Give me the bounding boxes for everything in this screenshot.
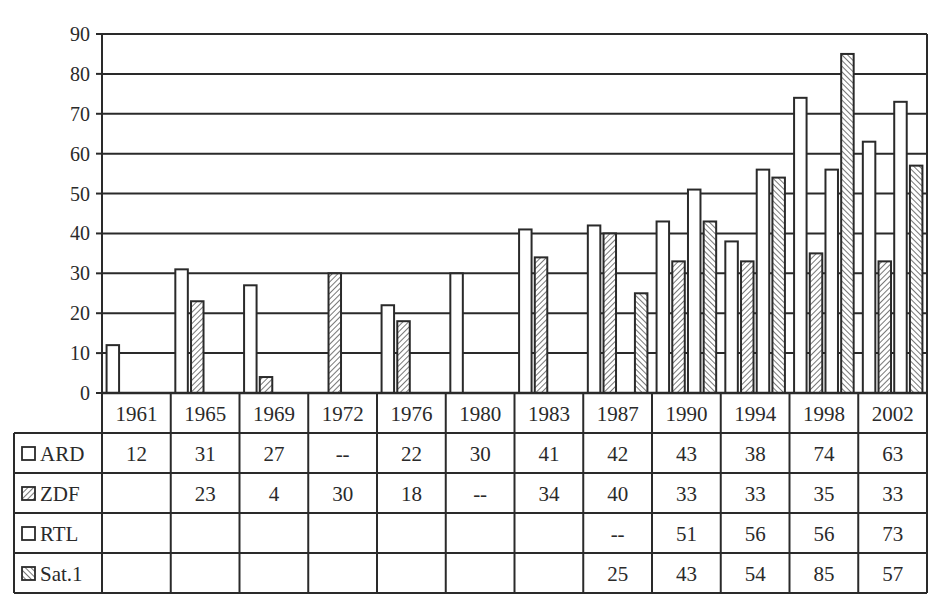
bar-rtl-2002 xyxy=(894,102,907,393)
table-cell-value: 54 xyxy=(745,562,767,586)
table-cell-value: 43 xyxy=(676,442,697,466)
table-cell-value: 35 xyxy=(813,482,834,506)
bars xyxy=(107,54,923,393)
bar-zdf-1972 xyxy=(329,273,342,393)
x-category-label: 1972 xyxy=(322,402,364,426)
table-cell-value: 42 xyxy=(607,442,628,466)
table-cell-value: 18 xyxy=(401,482,422,506)
bar-zdf-1994 xyxy=(741,261,754,393)
table-cell-value: -- xyxy=(611,522,625,546)
x-category-label: 1969 xyxy=(253,402,295,426)
table-cell-value: 38 xyxy=(745,442,766,466)
bar-ard-1969 xyxy=(244,285,257,393)
x-category-label: 1987 xyxy=(597,402,639,426)
x-category-label: 2002 xyxy=(872,402,914,426)
bar-rtl-1990 xyxy=(688,190,701,393)
table-cell-value: -- xyxy=(473,482,487,506)
bar-zdf-1965 xyxy=(191,301,204,393)
table-cell-value: 34 xyxy=(538,482,560,506)
table-cell-value: 57 xyxy=(882,562,903,586)
x-category-label: 1998 xyxy=(803,402,845,426)
bar-rtl-1998 xyxy=(825,170,838,393)
table-cell-value: 43 xyxy=(676,562,697,586)
y-tick-label: 50 xyxy=(70,183,90,205)
table-cell-value: 63 xyxy=(882,442,903,466)
table-cell-value: 25 xyxy=(607,562,628,586)
table-cell-value: -- xyxy=(336,442,350,466)
bar-ard-1983 xyxy=(519,229,532,393)
bar-ard-1976 xyxy=(382,305,395,393)
bar-ard-1961 xyxy=(107,345,120,393)
bar-ard-1998 xyxy=(794,98,807,393)
bar-zdf-1969 xyxy=(260,377,273,393)
x-category-label: 1983 xyxy=(528,402,570,426)
table-cell-value: 41 xyxy=(538,442,559,466)
bar-ard-2002 xyxy=(863,142,876,393)
legend-swatch-zdf xyxy=(22,487,35,500)
bar-zdf-1990 xyxy=(672,261,685,393)
legend-label: Sat.1 xyxy=(40,562,83,586)
y-tick-label: 10 xyxy=(70,342,90,364)
bar-chart-with-data-table: 0102030405060708090 19611965196919721976… xyxy=(0,0,939,616)
bar-rtl-1994 xyxy=(757,170,770,393)
legend-swatch-rtl xyxy=(22,527,35,540)
table-cell-value: 85 xyxy=(813,562,834,586)
table-cell-value: 31 xyxy=(195,442,216,466)
table-cell-value: 74 xyxy=(813,442,835,466)
bar-zdf-1976 xyxy=(397,321,410,393)
legend-label: ZDF xyxy=(40,482,80,506)
bar-sat1-1994 xyxy=(772,178,785,393)
table-cell-value: 33 xyxy=(882,482,903,506)
bar-sat1-1990 xyxy=(704,221,717,393)
table-cell-value: 22 xyxy=(401,442,422,466)
bar-sat1-2002 xyxy=(910,166,923,393)
data-table: 1961196519691972197619801983198719901994… xyxy=(14,393,927,593)
table-cell-value: 30 xyxy=(470,442,491,466)
legend-swatch-sat1 xyxy=(22,567,35,580)
bar-ard-1965 xyxy=(175,269,188,393)
table-cell-value: 56 xyxy=(813,522,834,546)
bar-sat1-1987 xyxy=(635,293,648,393)
bar-ard-1980 xyxy=(450,273,463,393)
table-cell-value: 33 xyxy=(745,482,766,506)
bar-zdf-1983 xyxy=(535,257,548,393)
x-category-label: 1965 xyxy=(184,402,226,426)
y-tick-label: 80 xyxy=(70,63,90,85)
x-category-label: 1976 xyxy=(390,402,432,426)
table-cell-value: 30 xyxy=(332,482,353,506)
bar-ard-1990 xyxy=(657,221,670,393)
bar-zdf-2002 xyxy=(879,261,892,393)
table-cell-value: 73 xyxy=(882,522,903,546)
chart-figure: 0102030405060708090 19611965196919721976… xyxy=(0,0,939,616)
legend-label: RTL xyxy=(40,522,78,546)
legend-label: ARD xyxy=(40,442,84,466)
table-cell-value: 40 xyxy=(607,482,628,506)
x-category-label: 1980 xyxy=(459,402,501,426)
bar-zdf-1998 xyxy=(810,253,823,393)
table-cell-value: 4 xyxy=(269,482,280,506)
y-tick-label: 60 xyxy=(70,143,90,165)
table-cell-value: 27 xyxy=(263,442,284,466)
table-cell-value: 33 xyxy=(676,482,697,506)
x-category-label: 1990 xyxy=(665,402,707,426)
x-category-label: 1994 xyxy=(734,402,777,426)
bar-ard-1994 xyxy=(725,241,738,393)
y-tick-label: 90 xyxy=(70,23,90,45)
y-tick-label: 30 xyxy=(70,262,90,284)
y-tick-label: 70 xyxy=(70,103,90,125)
y-tick-label: 0 xyxy=(80,382,90,404)
legend-swatch-ard xyxy=(22,447,35,460)
table-cell-value: 56 xyxy=(745,522,766,546)
table-cell-value: 12 xyxy=(126,442,147,466)
bar-zdf-1987 xyxy=(604,233,617,393)
bar-ard-1987 xyxy=(588,225,601,393)
bar-sat1-1998 xyxy=(841,54,854,393)
y-tick-label: 40 xyxy=(70,222,90,244)
y-tick-label: 20 xyxy=(70,302,90,324)
table-cell-value: 23 xyxy=(195,482,216,506)
x-category-label: 1961 xyxy=(115,402,157,426)
table-cell-value: 51 xyxy=(676,522,697,546)
